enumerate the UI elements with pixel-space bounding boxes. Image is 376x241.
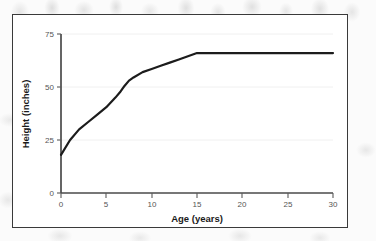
growth-curve-chart: 75 50 25 0 0 5 10 15 20 — [13, 15, 347, 227]
x-tick-label-15: 15 — [193, 200, 202, 209]
y-axis-title: Height (inches) — [20, 80, 31, 149]
x-tick-label-25: 25 — [284, 200, 293, 209]
figure-root: 75 50 25 0 0 5 10 15 20 — [0, 0, 376, 241]
y-tick-label-0: 0 — [50, 189, 55, 198]
x-tick-label-10: 10 — [148, 200, 157, 209]
y-tick-label-25: 25 — [45, 136, 54, 145]
axes — [61, 34, 333, 193]
x-tick-label-30: 30 — [329, 200, 338, 209]
x-axis-title: Age (years) — [171, 213, 223, 224]
x-tick-label-5: 5 — [104, 200, 109, 209]
y-tick-label-50: 50 — [45, 83, 54, 92]
y-tick-labels: 75 50 25 0 — [45, 30, 54, 198]
gridlines — [61, 34, 333, 140]
x-tick-label-20: 20 — [238, 200, 247, 209]
x-tick-label-0: 0 — [59, 200, 64, 209]
x-tick-labels: 0 5 10 15 20 25 30 — [59, 200, 338, 209]
chart-panel: 75 50 25 0 0 5 10 15 20 — [12, 14, 348, 228]
y-tick-label-75: 75 — [45, 30, 54, 39]
